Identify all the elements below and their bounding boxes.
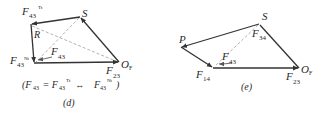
label-f14-sub: 14 [203,75,211,83]
panel-d: F 43 Tt S R F 43 Nt F 43 O F F 23 (F 43 … [9,5,133,109]
label-f43-nt: F [9,54,17,66]
label-r: R [33,29,40,40]
vector-of-to-s-d [81,18,119,62]
label-f43-e: F [221,50,229,62]
dashed-line-r-to-of [32,26,118,62]
vector-f43-tt [32,17,80,24]
vector-p-to-f14 [181,47,212,67]
caption-e: (e) [241,81,253,93]
label-f43-e-sub: 43 [229,58,237,66]
label-of-d-sub: F [129,65,133,71]
label-of-e-sub: F [309,70,313,76]
label-f43-nt-sub: 43 [17,61,25,69]
label-f23-d: F [105,64,113,76]
eq-sup3: Nt [107,78,113,83]
eq-sup2: Tt [66,78,71,83]
label-f23-e: F [285,70,293,82]
label-f34-sub: 34 [259,34,267,42]
eq-open: (F [22,79,32,91]
equation-f43: (F 43 = F 43 Tt ↔ F 43 Nt ) [22,78,120,91]
eq-equals: = F [40,79,59,90]
vector-of-to-s-e [260,25,299,68]
label-f43-tt-sup: Tt [38,5,43,10]
label-s-d: S [82,7,88,19]
label-p: P [178,33,186,45]
label-f43-tt: F [21,5,29,17]
label-f34: F [251,27,259,39]
caption-d: (d) [63,97,75,109]
eq-close: ) [115,79,120,91]
eq-arrow: ↔ [73,80,87,90]
label-of-e: O [301,63,309,75]
eq-sub3: 43 [100,85,106,91]
label-s-e: S [262,10,268,22]
panel-e: P S F 34 F 43 F 14 O F F 23 (e) [178,10,313,93]
eq-sub2: 43 [59,85,65,91]
vector-f23-d [34,62,118,63]
force-polygon-figure: F 43 Tt S R F 43 Nt F 43 O F F 23 (F 43 … [0,0,323,116]
eq-sub1: 43 [33,85,39,91]
label-f23-e-sub: 23 [293,78,301,86]
label-of-d: O [121,58,129,70]
label-f43-tt-sub: 43 [29,12,37,20]
label-f43-d-sub: 43 [58,53,66,61]
vector-s-to-p [182,24,259,47]
label-f14: F [195,68,203,80]
label-f43-nt-sup: Nt [24,56,30,61]
label-f43-d: F [50,45,58,57]
